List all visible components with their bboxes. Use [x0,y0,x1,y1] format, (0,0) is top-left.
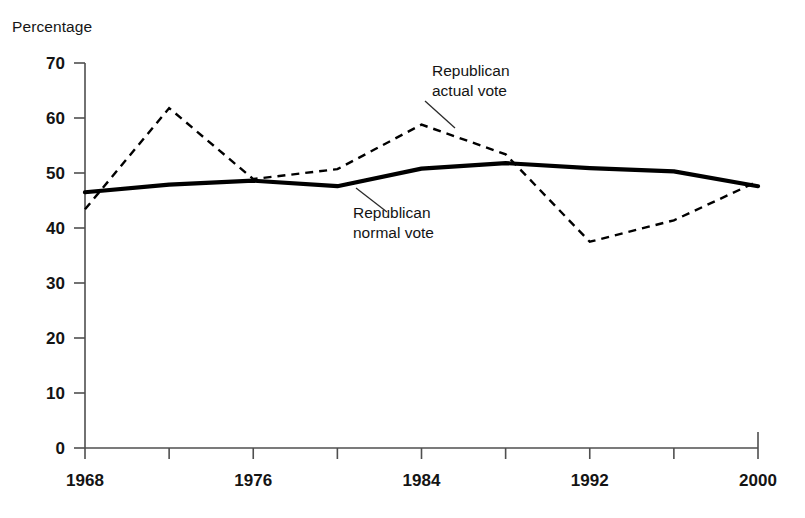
annotation-actual-vote: Republican actual vote [425,62,510,128]
annotation-actual-vote-line2: actual vote [432,82,507,99]
x-tick-marks [85,448,758,459]
x-tick-label: 2000 [739,471,777,490]
y-tick-labels: 010203040506070 [46,54,65,458]
y-tick-label: 50 [46,164,65,183]
x-tick-label: 1992 [571,471,609,490]
x-tick-label: 1976 [234,471,272,490]
chart-figure: Percentage 010203040506070 1968197619841… [0,0,805,518]
y-tick-label: 10 [46,384,65,403]
x-tick-label: 1984 [403,471,441,490]
x-axis-group: 19681976198419922000 [66,432,777,490]
leader-line-actual-vote [425,101,455,128]
y-tick-label: 70 [46,54,65,73]
y-tick-marks [74,63,85,448]
annotation-normal-vote-line2: normal vote [353,224,434,241]
line-chart-plot: 010203040506070 19681976198419922000 Rep… [0,0,805,518]
series-group [85,108,758,242]
y-tick-label: 60 [46,109,65,128]
y-tick-label: 40 [46,219,65,238]
y-tick-label: 0 [56,439,65,458]
series-republican-actual-vote [85,108,758,242]
annotation-normal-vote: Republican normal vote [353,188,434,241]
y-axis-group: 010203040506070 [46,54,85,458]
series-republican-normal-vote [85,163,758,192]
y-tick-label: 30 [46,274,65,293]
x-tick-labels: 19681976198419922000 [66,471,777,490]
annotation-actual-vote-line1: Republican [432,62,510,79]
x-tick-label: 1968 [66,471,104,490]
annotation-normal-vote-line1: Republican [353,204,431,221]
y-tick-label: 20 [46,329,65,348]
